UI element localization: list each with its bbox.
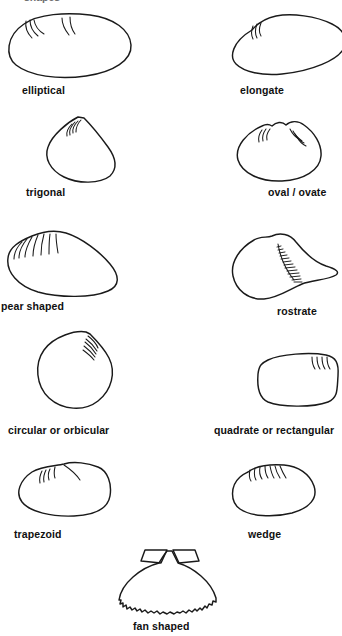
label-fan-shaped: fan shaped: [133, 620, 189, 632]
shape-fan-shaped: [111, 546, 227, 616]
label-elongate: elongate: [240, 84, 284, 96]
label-trigonal: trigonal: [26, 186, 65, 198]
clipped-header-text: shapes: [24, 0, 60, 3]
label-circular-orbicular: circular or orbicular: [8, 424, 109, 436]
shape-trapezoid: [14, 458, 118, 520]
label-rostrate: rostrate: [277, 305, 317, 317]
shape-circular-orbicular: [32, 328, 118, 414]
label-oval-ovate: oval / ovate: [268, 186, 326, 198]
shape-rostrate: [228, 230, 340, 306]
label-quadrate-rectangular: quadrate or rectangular: [214, 424, 334, 436]
shape-elliptical: [4, 12, 134, 80]
shape-trigonal: [38, 114, 128, 186]
label-trapezoid: trapezoid: [14, 528, 62, 540]
label-elliptical: elliptical: [22, 84, 65, 96]
shape-oval-ovate: [232, 118, 328, 186]
shape-elongate: [226, 12, 340, 80]
shape-quadrate-rectangular: [254, 350, 342, 410]
label-pear-shaped: pear shaped: [1, 300, 64, 312]
shape-wedge: [226, 460, 320, 520]
label-wedge: wedge: [248, 528, 281, 540]
shape-pear-shaped: [4, 228, 126, 300]
